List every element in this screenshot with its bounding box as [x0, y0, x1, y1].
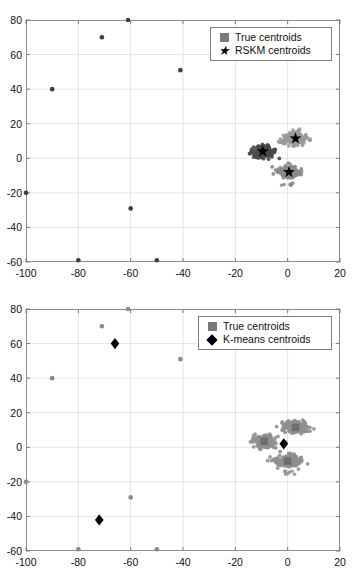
- legend-item-true-centroids[interactable]: True centroids: [203, 320, 325, 333]
- legend-label: True centroids: [233, 32, 302, 43]
- x-tick-label: -40: [163, 268, 203, 279]
- legend-rskm[interactable]: True centroids ★ RSKM centroids: [210, 27, 332, 61]
- y-tick-label: 80: [0, 304, 22, 315]
- plot-area-rskm: -60-40-20020406080 -100-80-60-40-20020 T…: [0, 0, 358, 290]
- x-tick-label: -100: [6, 557, 46, 568]
- x-tick-label: -20: [215, 268, 255, 279]
- y-tick-label: 60: [0, 339, 22, 350]
- x-tick-label: 0: [268, 557, 308, 568]
- y-tick-label: 60: [0, 50, 22, 61]
- x-tick-label: -40: [163, 557, 203, 568]
- x-tick-label: 0: [268, 268, 308, 279]
- legend-item-kmeans-centroids[interactable]: K-means centroids: [203, 333, 325, 346]
- legend-label: K-means centroids: [221, 334, 311, 345]
- y-tick-label: 40: [0, 84, 22, 95]
- x-tick-label: 20: [320, 557, 358, 568]
- y-tick-label: 40: [0, 373, 22, 384]
- legend-label: True centroids: [221, 321, 290, 332]
- x-tick-label: -20: [215, 557, 255, 568]
- y-tick-label: -40: [0, 222, 22, 233]
- y-tick-label: 20: [0, 408, 22, 419]
- panel-rskm: -60-40-20020406080 -100-80-60-40-20020 T…: [0, 0, 358, 290]
- x-tick-label: -60: [111, 557, 151, 568]
- legend-item-rskm-centroids[interactable]: ★ RSKM centroids: [215, 44, 325, 57]
- y-tick-label: 0: [0, 153, 22, 164]
- y-tick-label: 20: [0, 119, 22, 130]
- plot-area-kmeans: -60-40-20020406080 -100-80-60-40-20020 T…: [0, 289, 358, 579]
- x-tick-label: -100: [6, 268, 46, 279]
- y-tick-label: -60: [0, 257, 22, 268]
- diamond-marker-icon: [203, 336, 221, 344]
- x-tick-label: 20: [320, 268, 358, 279]
- y-tick-label: -40: [0, 511, 22, 522]
- star-marker-icon: ★: [215, 46, 233, 56]
- square-marker-icon: [203, 322, 221, 331]
- x-tick-label: -80: [58, 557, 98, 568]
- square-marker-icon: [215, 33, 233, 42]
- y-tick-label: 0: [0, 442, 22, 453]
- y-tick-label: -20: [0, 188, 22, 199]
- x-tick-label: -60: [111, 268, 151, 279]
- panel-kmeans: -60-40-20020406080 -100-80-60-40-20020 T…: [0, 289, 358, 579]
- legend-item-true-centroids[interactable]: True centroids: [215, 31, 325, 44]
- legend-label: RSKM centroids: [233, 45, 311, 56]
- y-tick-label: -60: [0, 546, 22, 557]
- x-tick-label: -80: [58, 268, 98, 279]
- legend-kmeans[interactable]: True centroids K-means centroids: [198, 316, 332, 350]
- y-tick-label: -20: [0, 477, 22, 488]
- y-tick-label: 80: [0, 15, 22, 26]
